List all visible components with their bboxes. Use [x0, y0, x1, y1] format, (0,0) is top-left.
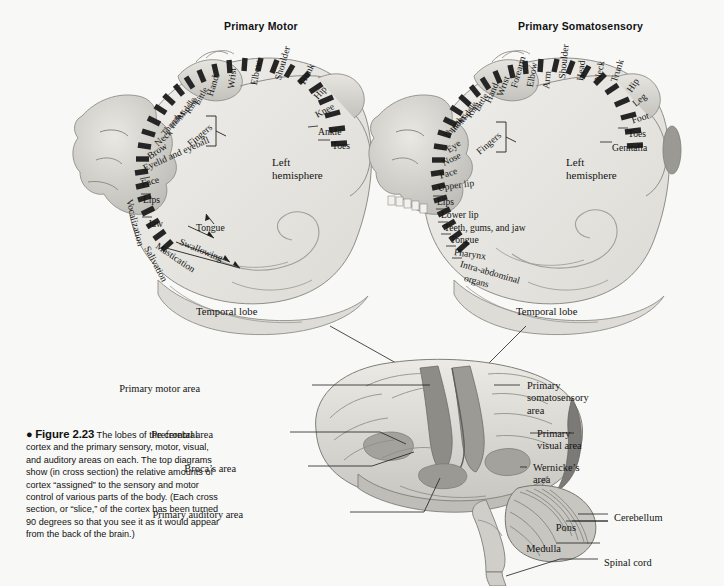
caption-bullet: ● — [26, 428, 33, 440]
motor-label-wrist: Wrist — [225, 67, 238, 89]
somatosensory-label-genitalia: Genitalia — [612, 142, 647, 153]
panel-title-motor: Primary Motor — [224, 20, 298, 32]
motor-hemisphere-art — [73, 51, 372, 335]
brain-label-primary-motor-area: Primary motor area — [119, 383, 200, 395]
motor-label-ankle: Ankle — [318, 126, 341, 137]
somatosensory-label-teeth-gums-and-jaw: Teeth, gums, and jaw — [444, 222, 526, 233]
brain-label-spinal-cord: Spinal cord — [604, 557, 652, 569]
caption-text: The lobes of the cerebral cortex and the… — [26, 430, 219, 539]
somatosensory-label-lower-lip: Lower lip — [441, 209, 479, 220]
panel-title-somatosensory: Primary Somatosensory — [518, 20, 643, 32]
somatosensory-hemisphere-label: Left hemisphere — [566, 156, 617, 181]
somatosensory-hemisphere-art — [369, 51, 681, 335]
somatosensory-label-toes: Toes — [628, 128, 646, 139]
somatosensory-label-tongue: Tongue — [450, 234, 479, 245]
somatosensory-label-arm: Arm — [540, 71, 553, 90]
figure-caption: ● Figure 2.23 The lobes of the cerebral … — [26, 428, 222, 541]
motor-label-jaw: Jaw — [148, 218, 163, 229]
somatosensory-label-lips: Lips — [437, 196, 454, 207]
brain-label-primary-visual-area: Primary visual area — [537, 428, 582, 453]
figure-number: Figure 2.23 — [35, 428, 94, 440]
somatosensory-temporal-lobe-label: Temporal lobe — [516, 306, 577, 317]
brain-label-medulla: Medulla — [526, 543, 561, 555]
somatosensory-label-head: Head — [574, 60, 587, 81]
brain-label-primary-somatosensory-area: Primary somatosensory area — [527, 380, 589, 417]
brain-label-pons: Pons — [556, 522, 576, 534]
motor-label-tongue: Tongue — [196, 222, 225, 233]
motor-label-lips: Lips — [143, 194, 160, 205]
figure-canvas: Primary Motor Primary Somatosensory Left… — [0, 0, 724, 586]
brain-label-wernicke-s-area: Wernicke’s area — [533, 462, 579, 487]
brain-label-cerebellum: Cerebellum — [614, 512, 662, 524]
motor-hemisphere-label: Left hemisphere — [272, 156, 323, 181]
motor-label-toes: Toes — [332, 140, 350, 151]
motor-temporal-lobe-label: Temporal lobe — [196, 306, 257, 317]
